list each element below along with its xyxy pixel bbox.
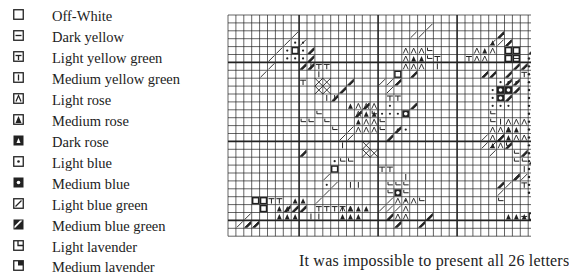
legend-label: Dark rose	[52, 132, 109, 152]
legend-item-medium-blue-green: Medium blue green	[0, 216, 215, 236]
dot-square-icon	[13, 156, 24, 167]
filled-dot-square-icon	[13, 177, 24, 188]
corner-square-icon	[13, 240, 24, 251]
caption-text: It was impossible to present all 26 lett…	[299, 252, 569, 270]
legend-label: Light blue green	[52, 195, 148, 215]
legend-item-medium-lavender: Medium lavender	[0, 257, 215, 273]
filled-slash-square-icon	[13, 219, 24, 230]
legend-item-dark-rose: Dark rose	[0, 132, 215, 152]
legend-item-medium-rose: Medium rose	[0, 111, 215, 131]
slash-square-icon	[13, 198, 24, 209]
legend-label: Medium rose	[52, 111, 129, 131]
cross-stitch-chart	[222, 8, 531, 240]
chart-grid	[228, 15, 531, 236]
legend-item-dark-yellow: Dark yellow	[0, 27, 215, 47]
legend-label: Medium yellow green	[52, 69, 180, 89]
empty-square-icon	[13, 9, 24, 20]
horizontal-bar-square-icon	[13, 30, 24, 41]
legend-item-light-lavender: Light lavender	[0, 237, 215, 257]
legend-label: Dark yellow	[52, 27, 124, 47]
legend-label: Light blue	[52, 153, 112, 173]
legend-item-medium-yellow-green: Medium yellow green	[0, 69, 215, 89]
legend-label: Light lavender	[52, 237, 137, 257]
legend-item-light-blue: Light blue	[0, 153, 215, 173]
legend-label: Light rose	[52, 90, 111, 110]
legend-item-light-blue-green: Light blue green	[0, 195, 215, 215]
legend-label: Medium blue	[52, 174, 130, 194]
legend-label: Medium blue green	[52, 216, 166, 236]
caret-square-icon	[13, 93, 24, 104]
filled-corner-square-icon	[13, 260, 24, 271]
filled-triangle-square-icon	[13, 114, 24, 125]
legend-item-light-rose: Light rose	[0, 90, 215, 110]
legend-item-medium-blue: Medium blue	[0, 174, 215, 194]
legend-label: Off-White	[52, 6, 112, 26]
legend-item-off-white: Off-White	[0, 6, 215, 26]
legend-label: Medium lavender	[52, 257, 155, 273]
vertical-bar-square-icon	[13, 72, 24, 83]
legend-label: Light yellow green	[52, 48, 162, 68]
inverted-triangle-square-icon	[13, 135, 24, 146]
legend-item-light-yellow-green: Light yellow green	[0, 48, 215, 68]
t-bar-square-icon	[13, 51, 24, 62]
